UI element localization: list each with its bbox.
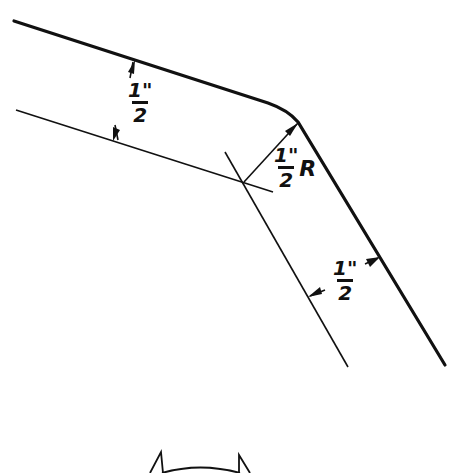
bend-radius-suffix: R [299, 158, 316, 180]
bend-radius-denominator: 2 [279, 170, 293, 190]
bottom-width-label: 1" 2 [333, 258, 357, 303]
bottom-partial-arc [162, 468, 240, 473]
bottom-left-spike [150, 452, 163, 473]
bottom-dim-right-arrowhead-icon [366, 257, 380, 267]
bend-radius-numerator: 1" [274, 145, 298, 165]
top-width-denominator: 2 [133, 105, 147, 125]
bottom-dim-left-arrowhead-icon [308, 287, 322, 297]
top-width-label: 1" 2 [128, 80, 152, 125]
bend-radius-label: 1" 2 R [274, 145, 316, 190]
top-width-numerator: 1" [128, 80, 152, 100]
bottom-right-spike [239, 455, 250, 473]
bottom-width-denominator: 2 [338, 283, 352, 303]
top-dim-upper-arrowhead-icon [128, 60, 135, 74]
outer-edge-line [14, 21, 445, 365]
top-dim-lower-arrowhead-icon [113, 127, 120, 141]
bend-diagram [0, 0, 452, 473]
bottom-width-numerator: 1" [333, 258, 357, 278]
